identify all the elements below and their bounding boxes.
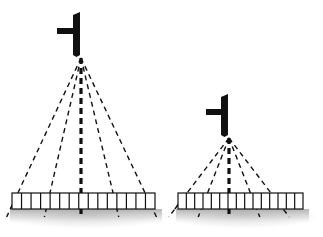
- bars-layer: [12, 193, 303, 209]
- masts-layer: [57, 12, 228, 137]
- left-assembly-bar-shadow: [10, 209, 162, 225]
- sensor-mast: [221, 94, 228, 137]
- bar-outline: [12, 193, 155, 209]
- right-assembly-segmented-measurement-bar: [178, 193, 303, 209]
- bar-outline: [178, 193, 303, 209]
- right-assembly-sensor-head[interactable]: [206, 94, 228, 137]
- left-assembly-segmented-measurement-bar: [12, 193, 155, 209]
- sensor-mast: [73, 12, 80, 57]
- sensor-crossbar: [57, 28, 80, 34]
- sensor-field-of-view-diagram: [0, 0, 323, 237]
- sensor-crossbar: [206, 109, 228, 115]
- diagram-canvas: [0, 0, 323, 237]
- left-assembly-sensor-head[interactable]: [57, 12, 80, 57]
